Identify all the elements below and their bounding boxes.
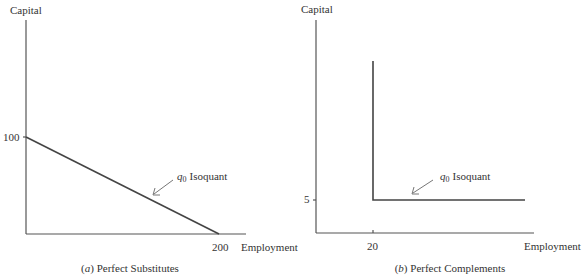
figure-canvas: Capital 100 200 Employment q0Isoquant (a…: [0, 0, 586, 280]
y-axis-label: Capital: [301, 3, 333, 15]
isoquant-label: q0Isoquant: [177, 170, 227, 184]
isoquant-line: [26, 137, 219, 234]
panel-perfect-complements: Capital 5 20 Employment q0Isoquant (b) P…: [301, 3, 581, 275]
y-axis-label: Capital: [10, 4, 42, 16]
x-axis-label: Employment: [241, 241, 298, 253]
x-tick-label: 20: [367, 240, 379, 252]
panel-caption: (a) Perfect Substitutes: [81, 262, 179, 275]
arrow-icon: [153, 180, 173, 195]
x-tick-label: 200: [212, 241, 229, 253]
panel-caption: (b) Perfect Complements: [395, 262, 506, 275]
isoquant-label: q0Isoquant: [440, 170, 490, 184]
arrow-icon: [412, 180, 433, 194]
y-tick-label: 100: [3, 131, 20, 143]
x-axis-label: Employment: [524, 240, 581, 252]
y-tick-label: 5: [304, 193, 310, 205]
panel-perfect-substitutes: Capital 100 200 Employment q0Isoquant (a…: [3, 4, 298, 275]
